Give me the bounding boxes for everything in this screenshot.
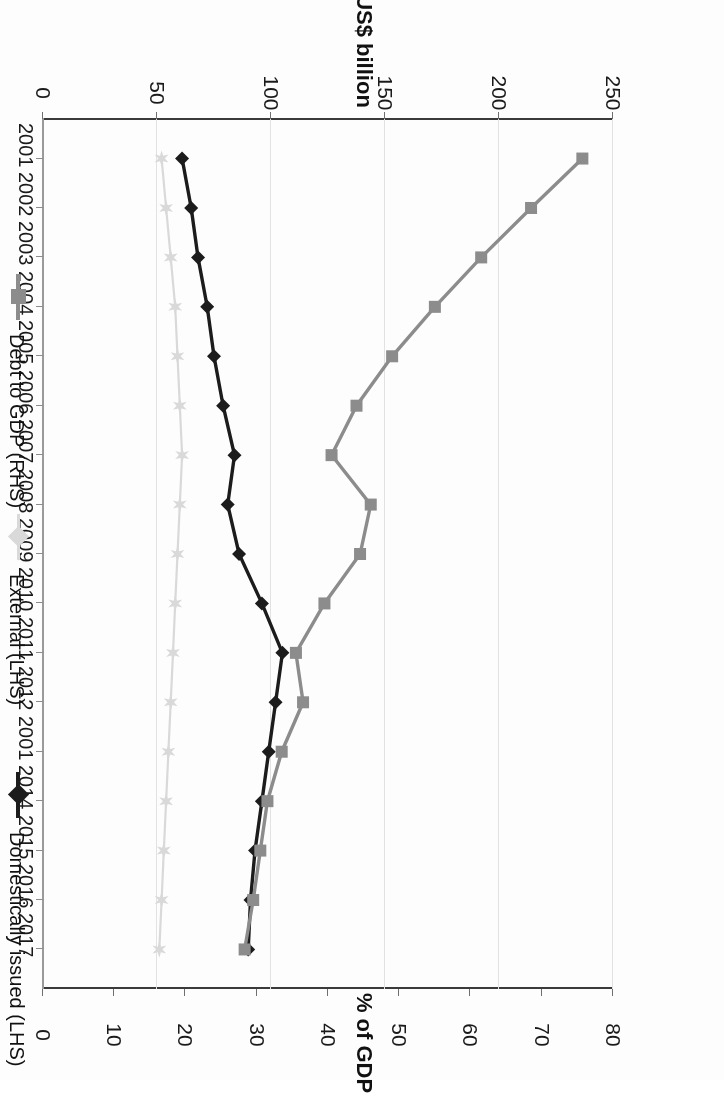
- data-point-marker: [525, 202, 537, 214]
- series-line: [245, 159, 583, 950]
- data-point-marker: [164, 249, 178, 265]
- data-point-marker: [351, 400, 363, 412]
- data-point-marker: [254, 845, 266, 857]
- data-point-marker: [162, 744, 176, 760]
- data-point-marker: [276, 746, 288, 758]
- series-2: [152, 151, 189, 958]
- data-point-marker: [175, 152, 189, 166]
- data-point-marker: [171, 348, 185, 364]
- data-point-marker: [576, 153, 588, 165]
- data-point-marker: [168, 595, 182, 611]
- data-point-marker: [157, 843, 171, 859]
- data-point-marker: [255, 596, 269, 610]
- data-point-marker: [191, 250, 205, 264]
- data-point-marker: [184, 201, 198, 215]
- data-point-marker: [261, 795, 273, 807]
- data-point-marker: [164, 694, 178, 710]
- data-point-marker: [326, 449, 338, 461]
- data-point-marker: [221, 498, 235, 512]
- legend-label: Domestically issued (LHS): [5, 832, 28, 1067]
- data-point-marker: [216, 399, 230, 413]
- legend-label: External (LHS): [5, 574, 28, 705]
- data-point-marker: [475, 251, 487, 263]
- data-point-marker: [290, 647, 302, 659]
- data-point-marker: [247, 894, 259, 906]
- series-1: [175, 152, 289, 957]
- data-point-marker: [173, 497, 187, 513]
- data-point-marker: [207, 349, 221, 363]
- series-3: [239, 153, 589, 956]
- data-point-marker: [166, 645, 180, 661]
- data-point-marker: [175, 447, 189, 463]
- data-point-marker: [200, 300, 214, 314]
- data-point-marker: [318, 597, 330, 609]
- data-point-marker: [297, 696, 309, 708]
- data-point-marker: [232, 547, 246, 561]
- data-point-marker: [365, 499, 377, 511]
- data-point-marker: [429, 301, 441, 313]
- data-point-marker: [155, 892, 169, 908]
- legend-label: Debt to GDP (RHS): [5, 334, 28, 508]
- data-point-marker: [159, 793, 173, 809]
- data-point-marker: [168, 299, 182, 315]
- data-point-marker: [152, 942, 166, 958]
- data-point-marker: [262, 745, 276, 759]
- data-point-marker: [155, 151, 169, 167]
- legend-marker-square: [11, 289, 26, 304]
- data-point-marker: [269, 695, 283, 709]
- data-point-marker: [228, 448, 242, 462]
- data-point-marker: [171, 546, 185, 562]
- data-point-marker: [386, 350, 398, 362]
- data-point-marker: [275, 646, 289, 660]
- data-point-marker: [239, 943, 251, 955]
- data-point-marker: [173, 398, 187, 414]
- data-point-marker: [159, 200, 173, 216]
- data-point-marker: [354, 548, 366, 560]
